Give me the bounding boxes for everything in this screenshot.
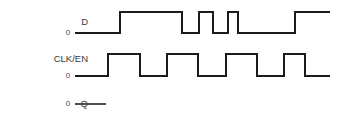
signal-label-d: D [81,16,88,27]
level-label-clk-en: 0 [66,71,71,80]
level-label-q: 0 [66,99,71,108]
signal-row-clk-en: CLK/EN 0 [54,53,330,81]
level-label-d: 0 [66,28,71,37]
waveform-path-d [75,12,330,33]
signal-row-d: D 0 [66,12,330,37]
signal-label-clk-en: CLK/EN [54,53,88,64]
signal-row-q: Q 0 [66,98,106,109]
waveform-path-clk-en [75,54,330,76]
signal-label-q: Q [81,98,88,109]
timing-diagram: D 0 CLK/EN 0 Q 0 [0,0,348,122]
waveform-canvas: D 0 CLK/EN 0 Q 0 [0,0,348,122]
